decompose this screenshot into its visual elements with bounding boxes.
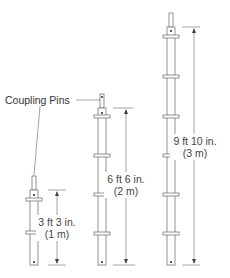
- height-m: (1 m): [36, 228, 78, 240]
- height-m: (2 m): [104, 185, 148, 197]
- ledger-ring: [163, 115, 179, 118]
- ledger-ring: [163, 193, 179, 196]
- height-ft: 6 ft 6 in.: [104, 173, 148, 185]
- height-m: (3 m): [170, 147, 220, 159]
- ledger-ring: [94, 115, 110, 118]
- dimension-label-medium: 6 ft 6 in. (2 m): [104, 172, 148, 198]
- ledger-ring: [163, 35, 179, 38]
- dimension-label-short: 3 ft 3 in. (1 m): [36, 215, 78, 241]
- coupling-pin: [32, 176, 36, 190]
- callout-leaders: [34, 100, 100, 175]
- height-ft: 3 ft 3 in.: [36, 216, 78, 228]
- coupling-pins-label: Coupling Pins: [5, 94, 70, 106]
- ledger-ring: [94, 232, 110, 235]
- ledger-ring: [163, 232, 179, 235]
- ledger-ring: [26, 198, 42, 201]
- height-ft: 9 ft 10 in.: [170, 135, 220, 147]
- coupling-pin: [169, 13, 173, 27]
- dimension-label-tall: 9 ft 10 in. (3 m): [170, 134, 220, 160]
- coupling-pin: [100, 94, 104, 108]
- ledger-ring: [163, 75, 179, 78]
- ledger-ring: [94, 154, 110, 157]
